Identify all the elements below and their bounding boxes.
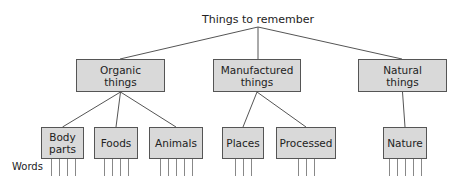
subcategory-node-nature: Nature — [383, 127, 427, 159]
tree-connectors — [0, 0, 456, 191]
edge-organic-to-animals — [121, 92, 177, 127]
category-node-manufactured-label-line2: things — [221, 76, 294, 88]
category-node-natural-label-line2: things — [383, 76, 422, 88]
edge-organic-to-body-parts — [63, 92, 121, 127]
subcategory-node-body-parts-label-line2: parts — [49, 143, 76, 155]
subcategory-node-processed-label-line1: Processed — [280, 137, 333, 149]
subcategory-node-foods-label-line1: Foods — [101, 137, 132, 149]
edge-natural-to-nature — [403, 92, 406, 127]
edge-manufactured-to-processed — [257, 92, 306, 127]
category-node-organic: Organicthings — [76, 59, 165, 92]
category-node-natural-label-line1: Natural — [383, 64, 422, 76]
category-node-manufactured: Manufacturedthings — [213, 59, 301, 92]
subcategory-node-foods: Foods — [94, 127, 138, 159]
edge-manufactured-to-places — [243, 92, 257, 127]
edge-organic-to-foods — [116, 92, 121, 127]
subcategory-node-places-label-line1: Places — [226, 137, 259, 149]
root-node-things-to-remember: Things to remember — [202, 13, 314, 26]
category-node-manufactured-label-line1: Manufactured — [221, 64, 294, 76]
category-node-natural: Naturalthings — [358, 59, 447, 92]
subcategory-node-processed: Processed — [276, 127, 336, 159]
category-node-organic-label-line1: Organic — [100, 64, 141, 76]
subcategory-node-animals: Animals — [149, 127, 203, 159]
words-label: Words — [12, 161, 43, 172]
subcategory-node-body-parts-label-line1: Body — [49, 131, 76, 143]
subcategory-node-animals-label-line1: Animals — [155, 137, 197, 149]
category-node-organic-label-line2: things — [100, 76, 141, 88]
edge-root-to-organic — [120, 27, 258, 59]
subcategory-node-places: Places — [222, 127, 264, 159]
subcategory-node-body-parts: Bodyparts — [41, 127, 84, 159]
edge-root-to-natural — [258, 27, 402, 59]
subcategory-node-nature-label-line1: Nature — [387, 137, 423, 149]
